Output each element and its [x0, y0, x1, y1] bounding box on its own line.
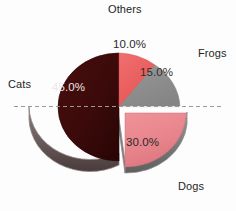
slice-percent-cats: 45.0% [52, 81, 85, 93]
slice-label-others: Others [108, 3, 142, 15]
slice-label-dogs: Dogs [178, 180, 204, 192]
pie-chart-figure: 10.0% 15.0% 30.0% 45.0% Others Frogs Dog… [0, 0, 236, 211]
slice-percent-dogs: 30.0% [126, 136, 159, 148]
slice-label-frogs: Frogs [198, 47, 227, 59]
slice-percent-others: 10.0% [113, 38, 146, 50]
slice-percent-frogs: 15.0% [140, 66, 173, 78]
slice-cats [58, 53, 119, 161]
slice-label-cats: Cats [8, 78, 31, 90]
